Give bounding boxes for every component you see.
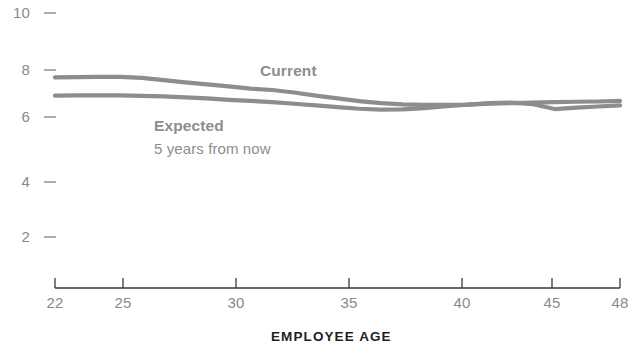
x-tick-label-30: 30 bbox=[216, 294, 256, 311]
x-tick-label-22: 22 bbox=[35, 294, 75, 311]
x-tick-label-35: 35 bbox=[329, 294, 369, 311]
x-tick-label-45: 45 bbox=[532, 294, 572, 311]
x-tick-label-48: 48 bbox=[600, 294, 640, 311]
x-tick-label-40: 40 bbox=[442, 294, 482, 311]
y-tick-label-4: 4 bbox=[4, 173, 30, 190]
x-axis-line bbox=[55, 278, 620, 288]
y-tick-label-6: 6 bbox=[4, 108, 30, 125]
y-axis-ticks bbox=[44, 13, 56, 237]
series-annotation-expected-sublabel: 5 years from now bbox=[154, 140, 271, 157]
x-tick-label-25: 25 bbox=[103, 294, 143, 311]
series-line-current bbox=[55, 77, 620, 105]
series-annotation-current: Current bbox=[260, 62, 317, 80]
series-annotation-expected: Expected bbox=[154, 117, 224, 135]
x-axis-title: EMPLOYEE AGE bbox=[271, 329, 392, 344]
y-tick-label-2: 2 bbox=[4, 228, 30, 245]
chart-container: 10 8 6 4 2 22 25 30 35 40 45 48 EMPLOYEE… bbox=[0, 0, 641, 364]
y-tick-label-8: 8 bbox=[4, 61, 30, 78]
y-tick-label-10: 10 bbox=[4, 4, 30, 21]
data-series-group bbox=[55, 77, 620, 110]
